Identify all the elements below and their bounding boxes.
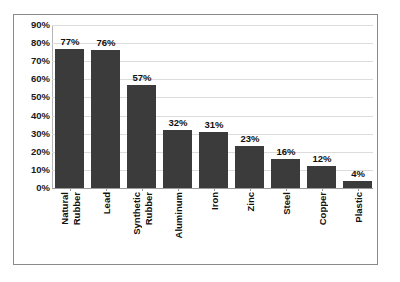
x-axis-tick-label-line: Zinc bbox=[245, 192, 256, 212]
bar bbox=[235, 146, 264, 188]
bar-value-label: 12% bbox=[300, 153, 344, 164]
bar-group: 12% bbox=[304, 25, 340, 188]
x-axis-tick: Lead bbox=[88, 190, 124, 262]
y-axis-tick-label: 70% bbox=[14, 56, 50, 66]
y-axis-tick-label: 90% bbox=[14, 20, 50, 30]
bar-value-label: 23% bbox=[228, 133, 272, 144]
bar-group: 77% bbox=[52, 25, 88, 188]
bar bbox=[91, 50, 120, 188]
tick-mark bbox=[250, 188, 251, 191]
x-axis-tick-label-line: Rubber bbox=[143, 192, 154, 225]
bar-group: 4% bbox=[340, 25, 376, 188]
x-axis-tick: SyntheticRubber bbox=[124, 190, 160, 262]
bar-group: 32% bbox=[160, 25, 196, 188]
tick-mark bbox=[286, 188, 287, 191]
x-axis-tick-label-line: Rubber bbox=[71, 192, 82, 225]
x-axis-tick: Plastic bbox=[340, 190, 376, 262]
bar bbox=[199, 132, 228, 188]
x-axis-tick-label: Aluminum bbox=[160, 192, 196, 262]
y-axis-tick-label: 10% bbox=[14, 165, 50, 175]
bar-group: 16% bbox=[268, 25, 304, 188]
x-axis-tick-label: Lead bbox=[88, 192, 124, 262]
bar bbox=[343, 181, 372, 188]
bar-group: 57% bbox=[124, 25, 160, 188]
x-axis-tick-label: SyntheticRubber bbox=[124, 192, 160, 262]
bar-chart-figure: 90%80%70%60%50%40%30%20%10%0% 77%76%57%3… bbox=[0, 0, 400, 282]
x-axis-tick-label-line: Lead bbox=[101, 192, 112, 214]
x-axis-tick-label: Copper bbox=[304, 192, 340, 262]
x-axis-tick: Steel bbox=[268, 190, 304, 262]
x-axis-tick: Aluminum bbox=[160, 190, 196, 262]
bar bbox=[307, 166, 336, 188]
x-axis-tick-label: Iron bbox=[196, 192, 232, 262]
bar-value-label: 31% bbox=[192, 119, 236, 130]
bar bbox=[55, 49, 84, 188]
y-axis-tick-label: 80% bbox=[14, 38, 50, 48]
x-axis-tick-label-line: Steel bbox=[281, 192, 292, 215]
bar-value-label: 76% bbox=[84, 37, 128, 48]
x-axis-tick-label-line: Synthetic bbox=[131, 192, 142, 235]
x-axis-tick-label-line: Plastic bbox=[353, 192, 364, 223]
y-axis-tick-label: 20% bbox=[14, 147, 50, 157]
bar bbox=[271, 159, 300, 188]
x-axis-tick: Iron bbox=[196, 190, 232, 262]
bar-value-label: 4% bbox=[336, 168, 380, 179]
x-axis-tick-label: Zinc bbox=[232, 192, 268, 262]
tick-mark bbox=[214, 188, 215, 191]
plot-area: 77%76%57%32%31%23%16%12%4% bbox=[52, 25, 373, 188]
tick-mark bbox=[142, 188, 143, 191]
x-axis-tick: Zinc bbox=[232, 190, 268, 262]
bar-group: 23% bbox=[232, 25, 268, 188]
x-axis-tick-label: Steel bbox=[268, 192, 304, 262]
gridline bbox=[52, 188, 373, 189]
x-axis-tick-label-line: Aluminum bbox=[173, 192, 184, 238]
tick-mark bbox=[358, 188, 359, 191]
tick-mark bbox=[322, 188, 323, 191]
y-axis-tick-label: 40% bbox=[14, 111, 50, 121]
y-axis-tick-label: 50% bbox=[14, 92, 50, 102]
y-axis-tick-label: 60% bbox=[14, 74, 50, 84]
y-axis-tick-labels: 90%80%70%60%50%40%30%20%10%0% bbox=[10, 0, 50, 282]
y-axis-tick-label: 30% bbox=[14, 129, 50, 139]
bar-group: 76% bbox=[88, 25, 124, 188]
tick-mark bbox=[106, 188, 107, 191]
tick-mark bbox=[70, 188, 71, 191]
x-axis-tick-labels: NaturalRubberLeadSyntheticRubberAluminum… bbox=[52, 190, 373, 262]
x-axis-tick-label: NaturalRubber bbox=[52, 192, 88, 262]
bar bbox=[127, 85, 156, 188]
bar-value-label: 57% bbox=[120, 72, 164, 83]
x-axis-tick-label-line: Copper bbox=[317, 192, 328, 225]
bar-group: 31% bbox=[196, 25, 232, 188]
x-axis-tick: Copper bbox=[304, 190, 340, 262]
x-axis-tick: NaturalRubber bbox=[52, 190, 88, 262]
x-axis-tick-label-line: Natural bbox=[59, 192, 70, 225]
bar bbox=[163, 130, 192, 188]
x-axis-tick-label-line: Iron bbox=[209, 192, 220, 210]
y-axis-tick-label: 0% bbox=[14, 183, 50, 193]
x-axis-tick-label: Plastic bbox=[340, 192, 376, 262]
tick-mark bbox=[178, 188, 179, 191]
